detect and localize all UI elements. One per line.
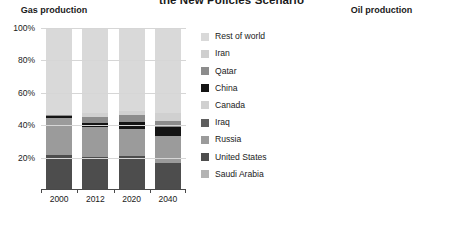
legend-item-label: Russia xyxy=(215,135,241,144)
chart-legend: Rest of worldIranQatarChinaCanadaIraqRus… xyxy=(201,28,299,183)
x-axis-tick-label: 2012 xyxy=(86,194,105,204)
bar-segment xyxy=(46,155,72,189)
gas-plot-area: 2000201220202040 xyxy=(41,28,186,190)
legend-item[interactable]: Rest of world xyxy=(201,28,299,45)
legend-item-label: United States xyxy=(215,153,267,162)
bar-segment xyxy=(155,127,181,136)
legend-swatch-icon xyxy=(201,84,209,92)
oil-production-panel: Oil production 2000201220202040 xyxy=(300,0,463,229)
gridline xyxy=(41,158,186,159)
legend-item[interactable]: Saudi Arabia xyxy=(201,166,299,183)
legend-swatch-icon xyxy=(201,170,209,178)
stacked-bar[interactable] xyxy=(155,28,181,189)
bar-segment xyxy=(119,129,145,156)
x-axis-tick-label: 2040 xyxy=(158,194,177,204)
bar-segment xyxy=(82,127,108,157)
bar-segment xyxy=(119,156,145,189)
legend-item[interactable]: United States xyxy=(201,148,299,165)
gridline xyxy=(41,60,186,61)
y-axis-tick-label: 40% xyxy=(18,120,35,130)
legend-item-label: Iraq xyxy=(215,118,230,127)
stacked-bar[interactable] xyxy=(119,28,145,189)
legend-swatch-icon xyxy=(201,119,209,127)
gas-y-axis-labels: 20%40%60%80%100% xyxy=(0,28,38,190)
x-axis-tick xyxy=(114,190,115,193)
legend-item[interactable]: Qatar xyxy=(201,62,299,79)
legend-item[interactable]: Iraq xyxy=(201,114,299,131)
y-axis-tick-label: 100% xyxy=(13,23,35,33)
x-axis-tick-label: 2000 xyxy=(50,194,69,204)
gas-bar-group xyxy=(41,28,186,190)
legend-item-label: Canada xyxy=(215,101,245,110)
gas-x-axis-labels: 2000201220202040 xyxy=(41,190,186,212)
legend-item[interactable]: Canada xyxy=(201,97,299,114)
legend-item-label: Rest of world xyxy=(215,32,265,41)
bar-segment xyxy=(82,157,108,189)
legend-swatch-icon xyxy=(201,136,209,144)
x-axis-tick xyxy=(150,190,151,193)
bar-segment xyxy=(155,163,181,189)
legend-swatch-icon xyxy=(201,33,209,41)
bar-segment xyxy=(119,115,145,122)
gridline xyxy=(41,93,186,94)
legend-swatch-icon xyxy=(201,50,209,58)
x-axis-tick xyxy=(185,190,186,193)
bar-segment xyxy=(82,28,108,113)
legend-item-label: Qatar xyxy=(215,67,237,76)
stacked-bar[interactable] xyxy=(82,28,108,189)
legend-item-label: Saudi Arabia xyxy=(215,170,264,179)
gridline xyxy=(41,125,186,126)
gridline xyxy=(41,28,186,29)
bar-segment xyxy=(119,28,145,111)
x-axis-tick-label: 2020 xyxy=(122,194,141,204)
legend-item-label: China xyxy=(215,84,237,93)
x-axis-tick xyxy=(41,190,42,193)
legend-swatch-icon xyxy=(201,67,209,75)
legend-swatch-icon xyxy=(201,153,209,161)
y-axis-tick-label: 20% xyxy=(18,153,35,163)
stacked-bar[interactable] xyxy=(46,28,72,189)
gas-panel-title: Gas production xyxy=(0,5,152,15)
bar-segment xyxy=(46,118,72,155)
chart-figure: the New Policies Scenario Gas production… xyxy=(0,0,463,229)
y-axis-tick-label: 80% xyxy=(18,55,35,65)
y-axis-tick-label: 60% xyxy=(18,88,35,98)
oil-panel-title: Oil production xyxy=(300,5,463,15)
x-axis-tick xyxy=(77,190,78,193)
legend-item[interactable]: Russia xyxy=(201,131,299,148)
legend-item[interactable]: Iran xyxy=(201,45,299,62)
bar-segment xyxy=(155,113,181,120)
legend-item[interactable]: China xyxy=(201,80,299,97)
legend-swatch-icon xyxy=(201,101,209,109)
gas-production-panel: Gas production 20%40%60%80%100% 20002012… xyxy=(0,0,196,229)
bar-segment xyxy=(155,28,181,113)
bar-segment xyxy=(155,136,181,163)
legend-item-label: Iran xyxy=(215,49,230,58)
bar-segment xyxy=(46,28,72,115)
